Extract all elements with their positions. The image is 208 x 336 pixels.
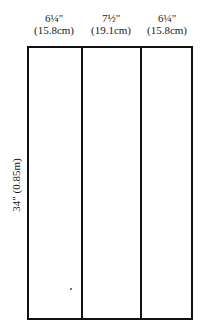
column-2-width-cm: (19.1cm) <box>81 24 141 36</box>
divider-1 <box>81 46 83 320</box>
panel-outline <box>27 46 193 320</box>
column-1-width-inches: 6¼" <box>24 12 84 24</box>
column-2-dimension: 7½" (19.1cm) <box>81 12 141 36</box>
column-1-width-cm: (15.8cm) <box>24 24 84 36</box>
column-1-dimension: 6¼" (15.8cm) <box>24 12 84 36</box>
column-3-width-cm: (15.8cm) <box>137 24 197 36</box>
height-dimension: 34" (0.85m) <box>10 158 22 211</box>
column-3-dimension: 6¼" (15.8cm) <box>137 12 197 36</box>
divider-2 <box>140 46 142 320</box>
marker-dot <box>70 288 72 290</box>
column-2-width-inches: 7½" <box>81 12 141 24</box>
column-3-width-inches: 6¼" <box>137 12 197 24</box>
